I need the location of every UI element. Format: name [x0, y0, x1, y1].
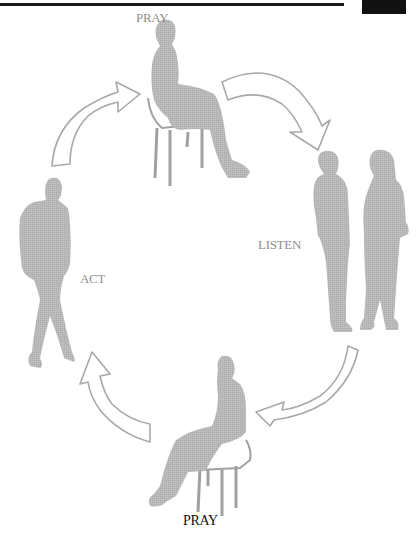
- arrow-pray-to-listen-icon: [222, 73, 330, 150]
- stage-label-act: ACT: [80, 271, 105, 287]
- stage-label-pray-top: PRAY: [136, 10, 168, 26]
- cycle-diagram: [0, 0, 419, 535]
- walking-person-icon: [19, 178, 74, 368]
- arrow-pray-to-act-icon: [80, 352, 150, 442]
- seated-person-bottom-icon: [149, 356, 251, 516]
- stage-label-pray-bottom: PRAY: [183, 513, 218, 529]
- arrow-listen-to-pray-icon: [256, 346, 358, 426]
- seated-person-top-icon: [148, 20, 250, 186]
- arrow-act-to-pray-icon: [52, 82, 140, 166]
- standing-people-icon: [313, 150, 408, 332]
- stage-label-listen: LISTEN: [258, 237, 301, 253]
